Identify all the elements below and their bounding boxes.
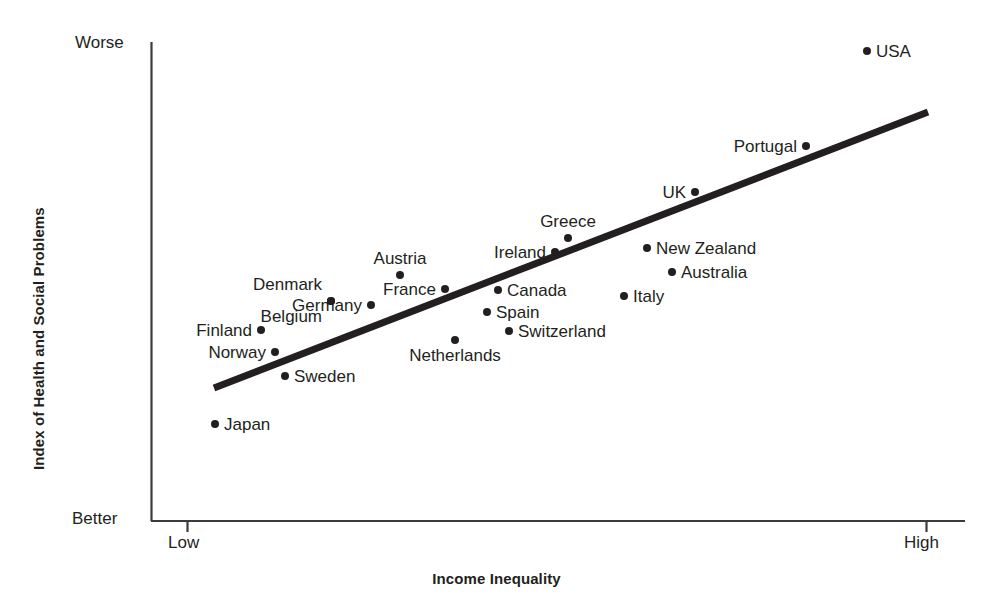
- trend-line: [214, 112, 928, 388]
- data-point-france: [441, 285, 449, 293]
- data-point-netherlands: [451, 336, 459, 344]
- data-point-norway: [271, 348, 279, 356]
- x-axis-title: Income Inequality: [0, 570, 993, 587]
- point-label-greece: Greece: [540, 213, 596, 231]
- point-label-italy: Italy: [633, 288, 664, 306]
- point-label-germany: Germany: [292, 297, 362, 315]
- point-label-australia: Australia: [681, 264, 747, 282]
- data-point-canada: [494, 286, 502, 294]
- point-label-ireland: Ireland: [494, 244, 546, 262]
- point-label-japan: Japan: [224, 416, 270, 434]
- point-label-portugal: Portugal: [734, 138, 797, 156]
- point-label-denmark: Denmark: [253, 276, 322, 294]
- data-point-new-zealand: [643, 244, 651, 252]
- point-label-austria: Austria: [374, 250, 427, 268]
- data-point-usa: [863, 47, 871, 55]
- point-label-usa: USA: [876, 43, 911, 61]
- point-label-canada: Canada: [507, 282, 567, 300]
- point-label-switzerland: Switzerland: [518, 323, 606, 341]
- data-point-portugal: [802, 142, 810, 150]
- data-point-austria: [396, 271, 404, 279]
- x-tick-label-high: High: [904, 533, 939, 553]
- data-point-greece: [564, 234, 572, 242]
- y-tick-label-better: Better: [72, 509, 117, 529]
- point-label-finland: Finland: [196, 322, 252, 340]
- data-point-japan: [211, 420, 219, 428]
- data-point-finland: [257, 326, 265, 334]
- data-point-italy: [620, 292, 628, 300]
- point-label-netherlands: Netherlands: [409, 347, 501, 365]
- point-label-new-zealand: New Zealand: [656, 240, 756, 258]
- point-label-sweden: Sweden: [294, 368, 355, 386]
- data-point-uk: [691, 188, 699, 196]
- data-point-australia: [668, 268, 676, 276]
- y-tick-label-worse: Worse: [75, 33, 124, 53]
- point-label-spain: Spain: [496, 304, 539, 322]
- x-tick-label-low: Low: [168, 533, 199, 553]
- data-point-ireland: [551, 248, 559, 256]
- data-point-sweden: [281, 372, 289, 380]
- data-point-germany: [367, 301, 375, 309]
- point-label-france: France: [383, 281, 436, 299]
- point-label-uk: UK: [662, 184, 686, 202]
- point-label-norway: Norway: [208, 344, 266, 362]
- data-point-switzerland: [505, 327, 513, 335]
- scatter-chart: Index of Health and Social Problems Inco…: [0, 0, 993, 614]
- data-point-spain: [483, 308, 491, 316]
- y-axis-title: Index of Health and Social Problems: [30, 207, 47, 470]
